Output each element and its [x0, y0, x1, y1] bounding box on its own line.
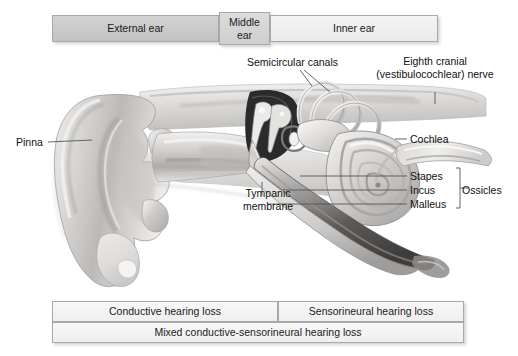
- callout-stapes: Stapes: [410, 170, 443, 183]
- callout-semicircular-canals: Semicircular canals: [247, 56, 338, 69]
- callout-eighth-cranial-nerve: Eighth cranial (vestibulocochlear) nerve: [368, 55, 502, 80]
- classification-bar-mixed: Mixed conductive-sensorineural hearing l…: [52, 322, 464, 343]
- figure-canvas: External ear Middle ear Inner ear Conduc…: [0, 0, 518, 356]
- classification-bar-conductive-label: Conductive hearing loss: [109, 305, 221, 317]
- region-bar-middle-ear: Middle ear: [219, 12, 270, 45]
- classification-bar-sensorineural: Sensorineural hearing loss: [278, 301, 464, 322]
- callout-cochlea: Cochlea: [410, 133, 449, 146]
- callout-ossicles: Ossicles: [462, 184, 502, 197]
- callout-pinna: Pinna: [16, 136, 43, 149]
- region-bar-middle-ear-label: Middle ear: [220, 16, 269, 40]
- leader-semicircular-a: [300, 70, 312, 86]
- region-bar-external-ear: External ear: [52, 15, 219, 42]
- region-bar-inner-ear-label: Inner ear: [333, 22, 375, 34]
- callout-malleus: Malleus: [410, 198, 446, 211]
- classification-bar-mixed-label: Mixed conductive-sensorineural hearing l…: [154, 326, 361, 338]
- callout-incus: Incus: [410, 184, 435, 197]
- leader-pinna: [48, 140, 92, 142]
- classification-bar-sensorineural-label: Sensorineural hearing loss: [309, 305, 433, 317]
- region-bar-external-ear-label: External ear: [107, 22, 164, 34]
- region-bar-inner-ear: Inner ear: [270, 15, 438, 42]
- ossicles-bracket: [456, 168, 460, 208]
- classification-bar-conductive: Conductive hearing loss: [52, 301, 278, 322]
- callout-tympanic-membrane: Tympanic membrane: [229, 187, 307, 212]
